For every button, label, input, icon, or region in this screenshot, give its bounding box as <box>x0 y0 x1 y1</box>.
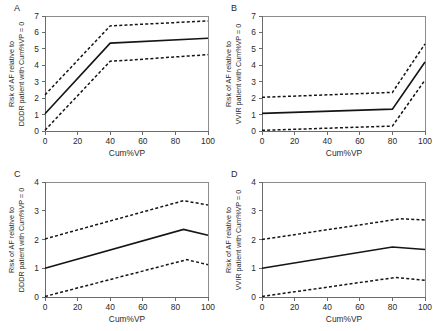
estimate-line <box>262 62 425 113</box>
plot-frame <box>45 182 208 297</box>
x-tick-label: 100 <box>201 136 215 146</box>
estimate-line <box>262 247 425 268</box>
x-tick-label: 0 <box>260 136 265 146</box>
panel-c-xlabel: Cum%VP <box>45 314 209 324</box>
x-tick-label: 100 <box>418 302 432 312</box>
panel-a: A Risk of AF relative to DDDR patient wi… <box>0 0 216 165</box>
x-tick-label: 80 <box>171 136 181 146</box>
y-tick-label: 6 <box>34 27 39 37</box>
y-tick-label: 1 <box>34 263 39 273</box>
y-tick-label: 4 <box>34 60 39 70</box>
confidence-limit-line <box>262 44 425 97</box>
x-tick-label: 20 <box>73 302 83 312</box>
panel-d: D Risk of AF relative to VVIR patient wi… <box>217 166 433 331</box>
y-tick-label: 4 <box>34 177 39 187</box>
x-tick-label: 80 <box>388 136 398 146</box>
x-tick-label: 20 <box>290 136 300 146</box>
y-tick-label: 3 <box>251 77 256 87</box>
y-tick-label: 5 <box>34 44 39 54</box>
estimate-line <box>45 229 208 268</box>
y-tick-label: 3 <box>34 206 39 216</box>
y-tick-label: 1 <box>251 263 256 273</box>
plot-frame <box>262 16 425 131</box>
panel-c: C Risk of AF relative to DDDR patient wi… <box>0 166 216 331</box>
y-tick-label: 1 <box>34 110 39 120</box>
estimate-line <box>45 38 208 114</box>
y-tick-label: 0 <box>34 292 39 302</box>
y-tick-label: 7 <box>251 11 256 21</box>
plot-frame <box>262 182 425 297</box>
confidence-limit-line <box>262 219 425 240</box>
x-tick-label: 60 <box>355 302 365 312</box>
y-tick-label: 6 <box>251 27 256 37</box>
y-tick-label: 1 <box>251 110 256 120</box>
x-tick-label: 0 <box>260 302 265 312</box>
x-tick-label: 20 <box>73 136 83 146</box>
confidence-limit-line <box>45 260 208 297</box>
confidence-limit-line <box>45 55 208 131</box>
x-tick-label: 40 <box>106 136 116 146</box>
x-tick-label: 60 <box>355 136 365 146</box>
x-tick-label: 40 <box>106 302 116 312</box>
figure-canvas: A Risk of AF relative to DDDR patient wi… <box>0 0 433 331</box>
y-tick-label: 2 <box>251 235 256 245</box>
x-tick-label: 40 <box>323 302 333 312</box>
y-tick-label: 4 <box>251 60 256 70</box>
y-tick-label: 5 <box>251 44 256 54</box>
panel-b-xlabel: Cum%VP <box>262 148 426 158</box>
x-tick-label: 0 <box>43 136 48 146</box>
panel-d-xlabel: Cum%VP <box>262 314 426 324</box>
x-tick-label: 80 <box>388 302 398 312</box>
y-tick-label: 3 <box>251 206 256 216</box>
confidence-limit-line <box>262 277 425 296</box>
confidence-limit-line <box>45 21 208 95</box>
x-tick-label: 100 <box>201 302 215 312</box>
plot-frame <box>45 16 208 131</box>
confidence-limit-line <box>45 201 208 239</box>
y-tick-label: 2 <box>34 93 39 103</box>
y-tick-label: 0 <box>34 126 39 136</box>
panel-d-plot: 01234020406080100 <box>217 166 433 331</box>
y-tick-label: 0 <box>251 126 256 136</box>
panel-b: B Risk of AF relative to VVIR patient wi… <box>217 0 433 165</box>
y-tick-label: 2 <box>251 93 256 103</box>
x-tick-label: 20 <box>290 302 300 312</box>
confidence-limit-line <box>262 80 425 130</box>
y-tick-label: 4 <box>251 177 256 187</box>
x-tick-label: 80 <box>171 302 181 312</box>
y-tick-label: 0 <box>251 292 256 302</box>
x-tick-label: 0 <box>43 302 48 312</box>
y-tick-label: 2 <box>34 235 39 245</box>
x-tick-label: 100 <box>418 136 432 146</box>
x-tick-label: 60 <box>138 136 148 146</box>
x-tick-label: 40 <box>323 136 333 146</box>
y-tick-label: 7 <box>34 11 39 21</box>
panel-a-xlabel: Cum%VP <box>45 148 209 158</box>
y-tick-label: 3 <box>34 77 39 87</box>
x-tick-label: 60 <box>138 302 148 312</box>
panel-a-plot: 01234567020406080100 <box>0 0 216 165</box>
panel-b-plot: 01234567020406080100 <box>217 0 433 165</box>
panel-c-plot: 01234020406080100 <box>0 166 216 331</box>
